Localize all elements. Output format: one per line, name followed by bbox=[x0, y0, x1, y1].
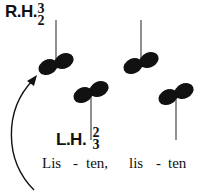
curved-arrow-icon bbox=[11, 75, 37, 190]
note-lh-2 bbox=[156, 80, 196, 140]
note-rh-2 bbox=[121, 20, 161, 77]
lyric-syllable-3: lis bbox=[129, 155, 143, 172]
note-rh-1 bbox=[36, 20, 76, 78]
left-hand-label: L.H. bbox=[56, 130, 86, 150]
rh-fingering-bottom: 2 bbox=[36, 15, 46, 27]
lyric-syllable-2: ten, bbox=[86, 155, 108, 172]
lyric-syllable-4: ten bbox=[168, 155, 186, 172]
lh-fingering-bottom: 3 bbox=[91, 139, 101, 151]
lyric-syllable-1: Lis bbox=[42, 155, 61, 172]
music-notation-figure: R.H. 3 2 L.H. 2 3 Lis - ten, lis - ten bbox=[0, 0, 202, 193]
lyric-hyphen-2: - bbox=[156, 155, 161, 172]
right-hand-label: R.H. bbox=[5, 2, 37, 22]
lyric-hyphen-1: - bbox=[73, 155, 78, 172]
